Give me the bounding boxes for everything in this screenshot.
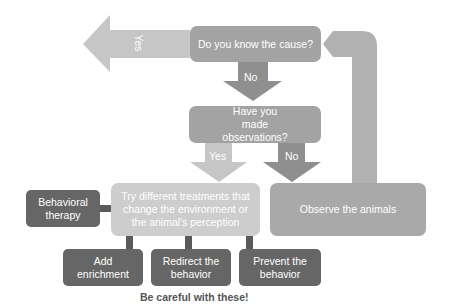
arrow-q2-yes (190, 143, 247, 182)
node-observe-animals: Observe the animals (270, 183, 426, 236)
caution-note: Be careful with these! (140, 291, 249, 303)
connector-prevent (246, 236, 253, 250)
arrow-loop-back (323, 31, 377, 184)
arrow-q2-no (263, 143, 321, 182)
node-try-treatments: Try different treatments that change the… (111, 183, 260, 236)
edge-label-q2-yes: Yes (209, 150, 226, 162)
node-prevent-behavior: Prevent the behavior (239, 249, 321, 286)
edge-label-q1-yes: Yes (133, 34, 145, 51)
edge-label-q1-no: No (244, 71, 257, 83)
edge-label-q2-no: No (285, 150, 298, 162)
node-add-enrichment: Add enrichment (63, 249, 143, 286)
connector-redirect (185, 236, 192, 250)
node-redirect-behavior: Redirect the behavior (151, 249, 231, 286)
node-know-cause: Do you know the cause? (190, 26, 321, 62)
connector-enrichment (126, 236, 133, 250)
node-made-observations: Have you made observations? (189, 106, 321, 143)
node-behavioral-therapy: Behavioral therapy (26, 190, 100, 227)
